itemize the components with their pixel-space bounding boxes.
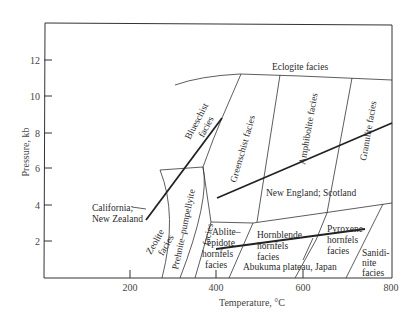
sanidinite-label-1: Sanidi- — [362, 248, 389, 258]
x-tick-800: 800 — [384, 282, 399, 293]
y-tick-10: 10 — [30, 91, 40, 102]
hornblende-label-2: hornfels — [257, 241, 288, 251]
x-axis: 200 400 600 800 Temperature, °C — [123, 270, 399, 308]
hornblende-label-1: Hornblende — [257, 230, 302, 240]
y-tick-8: 8 — [35, 128, 40, 139]
pyroxene-label-2: hornfels — [327, 235, 358, 245]
pyroxene-label-3: facies — [327, 246, 349, 256]
x-tick-400: 400 — [209, 282, 224, 293]
pyroxene-label-1: Pyroxene — [327, 224, 363, 234]
sanidinite-label-3: facies — [362, 268, 384, 278]
new-england-label: New England; Scotland — [266, 188, 356, 198]
y-tick-6: 6 — [35, 163, 40, 174]
x-tick-600: 600 — [296, 282, 311, 293]
y-tick-12: 12 — [30, 55, 40, 66]
albite-label-3: hornfels — [202, 249, 233, 259]
y-axis: 12 10 8 6 4 2 Pressure, kb — [20, 55, 52, 247]
california-label-2: New Zealand — [92, 214, 143, 224]
albite-label-2: epidote — [207, 238, 235, 248]
sanidinite-label-2: nite — [362, 258, 376, 268]
y-tick-4: 4 — [35, 200, 40, 211]
y-tick-2: 2 — [35, 236, 40, 247]
abukuma-label: Abukuma plateau, Japan — [243, 262, 337, 272]
y-axis-title: Pressure, kb — [20, 128, 31, 177]
x-tick-200: 200 — [123, 282, 138, 293]
facies-diagram: 12 10 8 6 4 2 Pressure, kb 200 400 600 8… — [0, 0, 416, 323]
hornblende-label-3: facies — [257, 252, 279, 262]
x-axis-title: Temperature, °C — [219, 297, 285, 308]
albite-label-4: facies — [205, 260, 227, 270]
albite-label-1: Ablite– — [212, 227, 241, 237]
amphibolite-label: Amphibolite facies — [297, 92, 319, 165]
prehnite-label-1: Prehnite–pumpellyite — [170, 188, 197, 270]
facies-labels: Eclogite facies Blueschist facies Greens… — [144, 62, 389, 278]
greenschist-label: Greenschist facies — [228, 114, 257, 184]
california-label-1: California; — [92, 203, 133, 213]
eclogite-label: Eclogite facies — [272, 62, 328, 72]
